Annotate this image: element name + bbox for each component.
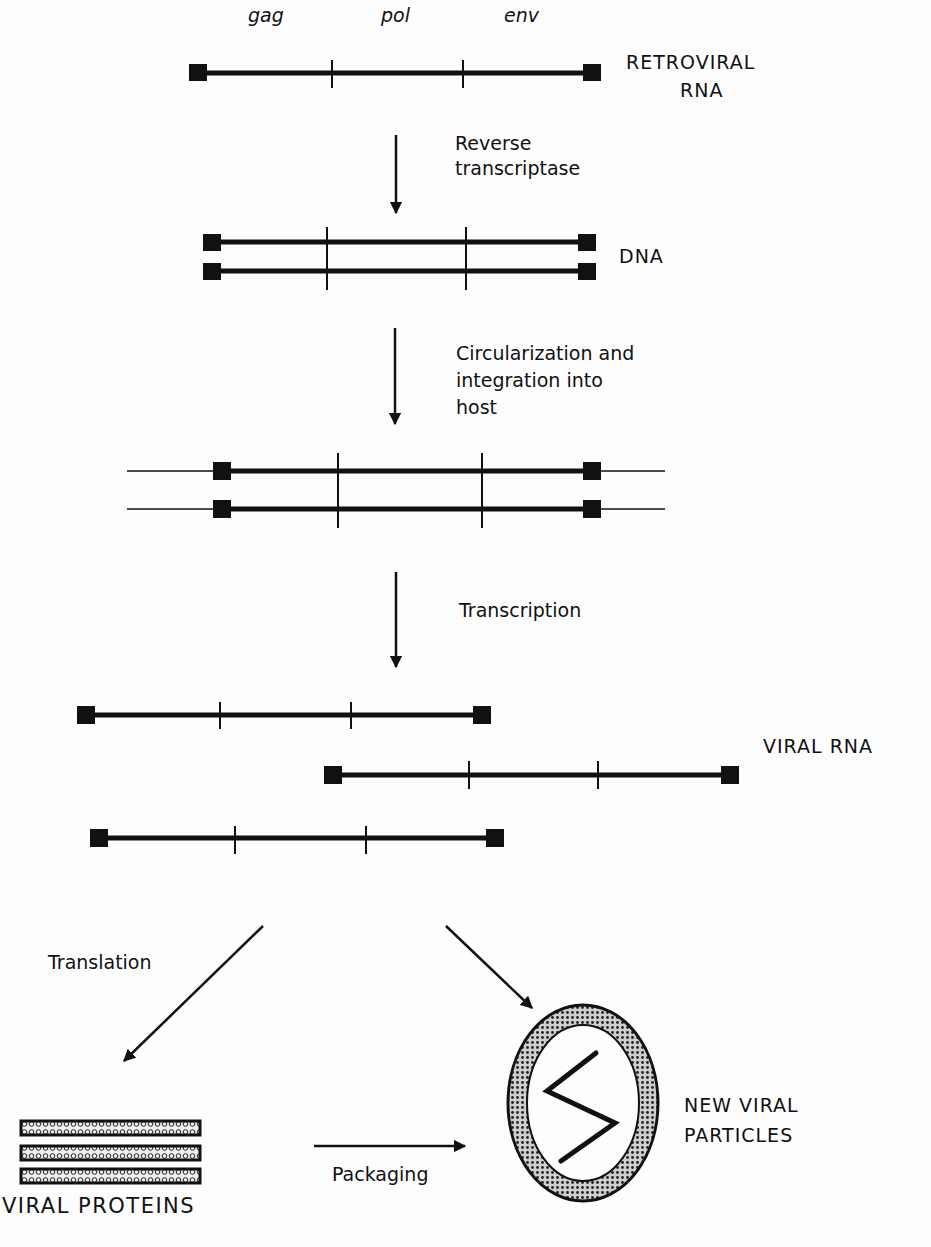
arrow-to-particles xyxy=(446,926,532,1008)
viral-proteins-bars xyxy=(21,1121,200,1183)
viral-particle xyxy=(508,1005,658,1201)
step-transcription: Transcription xyxy=(459,598,581,623)
arrow-translation xyxy=(124,926,263,1061)
integrated-provirus xyxy=(127,453,665,528)
gene-label-env: env xyxy=(504,4,539,26)
step-reverse-2: transcriptase xyxy=(455,156,580,181)
viral-rna-copy-3 xyxy=(90,826,504,854)
label-rna: RNA xyxy=(680,78,723,103)
viral-rna-copy-2 xyxy=(324,761,739,789)
label-new-viral: NEW VIRAL xyxy=(684,1093,799,1118)
viral-rna-copy-1 xyxy=(77,702,491,729)
retroviral-rna-strand xyxy=(189,60,601,88)
label-viral-proteins: VIRAL PROTEINS xyxy=(2,1194,195,1219)
label-particles: PARTICLES xyxy=(684,1123,793,1148)
label-dna: DNA xyxy=(619,244,664,269)
step-circ-2: integration into xyxy=(456,368,603,393)
step-circ-1: Circularization and xyxy=(456,341,634,366)
label-viral-rna: VIRAL RNA xyxy=(763,734,873,759)
step-translation: Translation xyxy=(48,950,152,975)
gene-label-pol: pol xyxy=(381,4,410,26)
step-reverse-1: Reverse xyxy=(455,131,531,156)
gene-label-gag: gag xyxy=(248,4,284,26)
label-retroviral: RETROVIRAL xyxy=(626,50,755,75)
step-circ-3: host xyxy=(456,395,497,420)
diagram-canvas xyxy=(0,0,931,1247)
dna-double-strand xyxy=(203,227,596,290)
step-packaging: Packaging xyxy=(332,1162,428,1187)
